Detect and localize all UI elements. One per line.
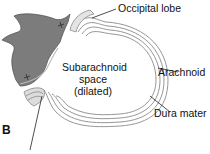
label-occipital-lobe: Occipital lobe <box>118 3 181 14</box>
label-arachnoid: Arachnoid <box>158 67 205 78</box>
center-line-1: Subarachnoid <box>62 61 124 73</box>
label-subarachnoid-space: Subarachnoid space (dilated) <box>62 61 124 97</box>
center-line-2: space <box>62 73 124 85</box>
brain-tissue <box>2 14 70 86</box>
panel-label: B <box>2 123 11 137</box>
label-dura-mater: Dura mater <box>154 108 207 119</box>
leader-occipital-lobe <box>92 9 116 18</box>
center-line-3: (dilated) <box>62 85 124 97</box>
